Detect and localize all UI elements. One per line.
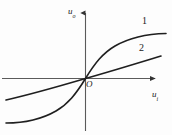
transfer-characteristic-figure: uo ui O 1 2 <box>0 0 172 135</box>
origin-label: O <box>86 80 93 89</box>
y-axis-label: uo <box>68 1 76 19</box>
x-axis-label-subscript: i <box>157 96 159 102</box>
x-axis-label: ui <box>152 84 158 102</box>
y-axis-label-subscript: o <box>73 13 76 19</box>
curve-2-label: 2 <box>139 43 144 53</box>
curve-1-label: 1 <box>142 16 147 26</box>
